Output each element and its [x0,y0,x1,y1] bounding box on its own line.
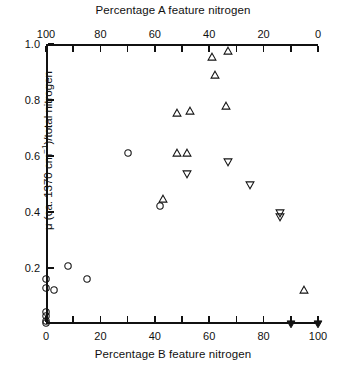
top-axis-tick-label: 40 [203,28,215,40]
bottom-axis-title: Percentage B feature nitrogen [0,348,346,360]
top-axis-title: Percentage A feature nitrogen [0,4,346,16]
top-axis-tick-minor [181,46,183,52]
y-axis-title-prefix: μ (ca. 1370 cm [42,154,54,230]
y-axis-tick-label: 1.0 [25,38,40,50]
data-point-triangle-up-open [206,51,217,62]
bottom-axis-tick-label: 0 [43,330,49,342]
data-point-triangle-up-open [185,106,196,117]
y-axis-tick-label: 0.4 [25,206,40,218]
data-point-triangle-up-open [299,285,310,296]
bottom-axis-tick [100,316,102,322]
y-axis-title-suffix: )/total nitrogen [42,71,54,145]
data-point-triangle-down-open [223,157,234,168]
data-point-triangle-up-open [157,193,168,204]
y-axis-tick-label: 0.6 [25,150,40,162]
data-point-circle-open [62,260,73,271]
data-point-triangle-up-open [171,107,182,118]
y-axis-tick [48,267,54,269]
data-point-triangle-down-open [274,212,285,223]
bottom-axis-tick-minor [72,316,74,322]
top-axis-tick [100,46,102,52]
data-point-circle-open [81,274,92,285]
top-axis-tick [263,46,265,52]
top-axis-tick [154,46,156,52]
bottom-axis-tick-label: 20 [94,330,106,342]
top-axis-tick [45,46,47,52]
bottom-axis-tick [154,316,156,322]
bottom-axis-tick-minor [236,316,238,322]
data-point-circle-open [49,284,60,295]
scatter-chart-figure: Percentage A feature nitrogen 1008060402… [0,0,346,369]
top-axis-tick-minor [236,46,238,52]
bottom-axis-tick-label: 40 [149,330,161,342]
top-axis-tick-minor [72,46,74,52]
bottom-axis-tick-label: 100 [309,330,327,342]
top-axis-tick-label: 60 [149,28,161,40]
top-axis-tick-minor [127,46,129,52]
data-point-triangle-up-open [220,100,231,111]
y-axis-tick-label: 0.2 [25,262,40,274]
data-point-circle-open [41,317,52,328]
y-axis-title-exponent: −1 [40,145,49,154]
bottom-axis-tick-label: 60 [203,330,215,342]
data-point-triangle-down-filled [313,319,324,330]
top-axis-tick [317,46,319,52]
top-axis-tick-label: 20 [257,28,269,40]
data-point-triangle-up-open [223,46,234,57]
bottom-axis-tick-minor [127,316,129,322]
top-axis-tick-label: 0 [315,28,321,40]
y-axis-tick [48,43,54,45]
data-point-triangle-up-open [182,147,193,158]
plot-area: 100806040200 020406080100 0.20.40.60.81.… [46,44,318,324]
data-point-triangle-down-filled [285,319,296,330]
bottom-axis-tick-minor [181,316,183,322]
y-axis-title: μ (ca. 1370 cm−1)/total nitrogen [40,71,54,230]
top-axis-tick-label: 80 [94,28,106,40]
top-axis-tick-minor [290,46,292,52]
data-point-circle-open [122,147,133,158]
data-point-triangle-down-open [182,169,193,180]
bottom-axis-tick [263,316,265,322]
data-point-triangle-up-open [209,69,220,80]
y-axis-tick-label: 0.8 [25,94,40,106]
axis-line-bottom [46,322,318,324]
data-point-triangle-down-open [245,180,256,191]
bottom-axis-tick [208,316,210,322]
data-point-triangle-up-open [171,147,182,158]
bottom-axis-tick-label: 80 [257,330,269,342]
